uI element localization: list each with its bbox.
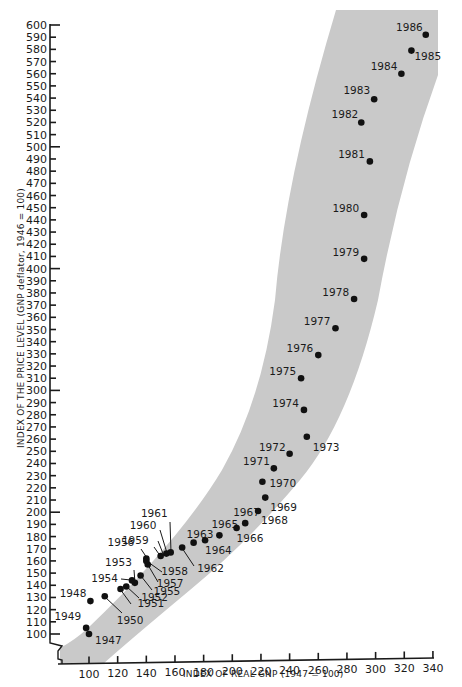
y-tick-label: 390 [26, 275, 47, 288]
y-tick-label: 440 [26, 214, 47, 227]
y-tick-label: 330 [26, 348, 47, 361]
y-tick-label: 550 [26, 80, 47, 93]
x-tick-label: 100 [79, 668, 100, 681]
year-label: 1968 [261, 514, 288, 526]
point-marker [361, 212, 368, 219]
point-marker [179, 544, 186, 551]
y-tick-label: 310 [26, 372, 47, 385]
point-marker [367, 158, 374, 165]
y-tick-label: 350 [26, 324, 47, 337]
y-tick-label: 570 [26, 56, 47, 69]
data-point-1954: 1954 [91, 572, 135, 584]
point-marker [86, 631, 93, 638]
year-label: 1961 [141, 507, 168, 519]
y-tick-label: 460 [26, 190, 47, 203]
y-tick-label: 450 [26, 202, 47, 215]
x-axis-title: INDEX OF REAL GNP (1947 = 100) [183, 669, 344, 679]
y-tick-label: 260 [26, 433, 47, 446]
year-label: 1980 [332, 202, 359, 214]
point-marker [262, 494, 269, 501]
y-tick-label: 120 [26, 604, 47, 617]
year-label: 1977 [304, 315, 331, 327]
point-marker [271, 465, 278, 472]
year-label: 1954 [91, 572, 118, 584]
y-tick-label: 590 [26, 31, 47, 44]
year-label: 1949 [54, 610, 81, 622]
data-point-1948: 1948 [60, 587, 94, 604]
year-label: 1950 [117, 614, 144, 626]
y-tick-label: 300 [26, 384, 47, 397]
y-tick-label: 420 [26, 238, 47, 251]
y-tick-label: 510 [26, 129, 47, 142]
year-label: 1976 [287, 342, 314, 354]
y-tick-label: 170 [26, 543, 47, 556]
y-tick-label: 410 [26, 250, 47, 263]
x-tick-label: 340 [422, 662, 443, 675]
point-marker [298, 375, 305, 382]
y-tick-label: 210 [26, 494, 47, 507]
point-marker [332, 325, 339, 332]
y-tick-label: 580 [26, 43, 47, 56]
year-label: 1974 [272, 397, 299, 409]
y-tick-label: 180 [26, 531, 47, 544]
point-marker [301, 407, 308, 414]
year-label: 1948 [60, 587, 87, 599]
y-tick-label: 340 [26, 336, 47, 349]
data-point-1949: 1949 [54, 610, 89, 631]
year-label: 1983 [343, 84, 370, 96]
year-label: 1971 [243, 455, 270, 467]
point-marker [123, 583, 130, 590]
year-label: 1958 [161, 565, 188, 577]
year-label: 1973 [313, 441, 340, 453]
y-tick-label: 270 [26, 421, 47, 434]
point-marker [371, 96, 378, 103]
year-label: 1957 [157, 577, 184, 589]
point-marker [358, 119, 365, 126]
x-tick-label: 320 [394, 662, 415, 675]
y-tick-label: 100 [26, 628, 47, 641]
year-label: 1947 [95, 634, 122, 646]
year-label: 1953 [105, 556, 132, 568]
y-tick-label: 140 [26, 579, 47, 592]
point-marker [361, 256, 368, 263]
y-tick-label: 370 [26, 299, 47, 312]
year-label: 1970 [269, 477, 296, 489]
y-tick-label: 280 [26, 409, 47, 422]
y-tick-label: 150 [26, 567, 47, 580]
year-label: 1960 [130, 519, 157, 531]
year-label: 1981 [338, 148, 365, 160]
year-label: 1969 [270, 501, 297, 513]
year-label: 1975 [269, 365, 296, 377]
x-tick-label: 120 [107, 667, 128, 680]
year-label: 1966 [237, 532, 264, 544]
year-label: 1978 [322, 286, 349, 298]
point-marker [216, 532, 223, 539]
point-marker [157, 553, 164, 560]
point-marker [137, 572, 144, 579]
y-tick-label: 360 [26, 311, 47, 324]
year-label: 1979 [332, 246, 359, 258]
y-tick-label: 470 [26, 177, 47, 190]
point-marker [242, 520, 249, 527]
point-marker [190, 539, 197, 546]
y-tick-label: 540 [26, 92, 47, 105]
y-tick-label: 400 [26, 263, 47, 276]
y-tick-label: 500 [26, 141, 47, 154]
y-tick-label: 230 [26, 470, 47, 483]
point-marker [351, 296, 358, 303]
point-marker [233, 525, 240, 532]
point-marker [101, 593, 108, 600]
point-marker [286, 450, 293, 457]
x-tick-label: 300 [365, 663, 386, 676]
y-tick-label: 110 [26, 616, 47, 629]
x-tick-label: 140 [136, 667, 157, 680]
point-marker [129, 577, 136, 584]
y-tick-label: 520 [26, 116, 47, 129]
y-tick-label: 130 [26, 591, 47, 604]
point-marker [87, 598, 94, 605]
point-marker [259, 478, 266, 485]
y-tick-label: 240 [26, 457, 47, 470]
point-marker [83, 625, 90, 632]
y-tick-label: 600 [26, 19, 47, 32]
point-marker [304, 433, 311, 440]
